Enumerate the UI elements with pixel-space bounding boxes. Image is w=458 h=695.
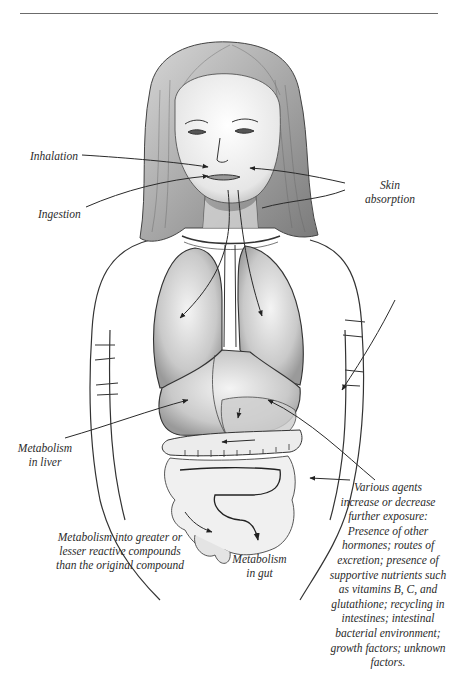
collar: [182, 236, 280, 244]
label-ingestion: Ingestion: [38, 207, 81, 221]
label-various-agents-line-7: supportive nutrients such: [318, 568, 458, 583]
label-metabolism-liver: Metabolism in liver: [10, 441, 80, 469]
label-metabolism-reactive-line-3: than the original compound: [30, 558, 210, 572]
label-various-agents-line-10: intestines; intestinal: [318, 611, 458, 626]
trachea: [224, 245, 236, 347]
label-various-agents-line-12: growth factors; unknown: [318, 641, 458, 656]
label-various-agents-line-13: factors.: [318, 655, 458, 670]
label-various-agents: Various agents increase or decrease furt…: [318, 480, 458, 670]
label-metabolism-gut-line-2: in gut: [222, 566, 297, 580]
label-inhalation: Inhalation: [30, 149, 78, 163]
label-metabolism-liver-line-1: Metabolism: [10, 441, 80, 455]
label-metabolism-reactive-line-2: lesser reactive compounds: [30, 544, 210, 558]
label-skin-absorption-line-1: Skin: [355, 178, 425, 192]
label-various-agents-line-3: further exposure:: [318, 509, 458, 524]
label-various-agents-line-9: glutathione; recycling in: [318, 597, 458, 612]
label-metabolism-reactive-line-1: Metabolism into greater or: [30, 530, 210, 544]
label-skin-absorption-line-2: absorption: [355, 192, 425, 206]
label-various-agents-line-1: Various agents: [318, 480, 458, 495]
label-various-agents-line-6: excretion; presence of: [318, 553, 458, 568]
label-metabolism-liver-line-2: in liver: [10, 455, 80, 469]
label-various-agents-line-5: hormones; routes of: [318, 538, 458, 553]
label-various-agents-line-4: Presence of other: [318, 524, 458, 539]
label-metabolism-reactive: Metabolism into greater or lesser reacti…: [30, 530, 210, 572]
label-various-agents-line-8: as vitamins B, C, and: [318, 582, 458, 597]
label-skin-absorption: Skin absorption: [355, 178, 425, 206]
label-metabolism-gut-line-1: Metabolism: [222, 552, 297, 566]
label-various-agents-line-2: increase or decrease: [318, 495, 458, 510]
label-metabolism-gut: Metabolism in gut: [222, 552, 297, 580]
label-various-agents-line-11: bacterial environment;: [318, 626, 458, 641]
